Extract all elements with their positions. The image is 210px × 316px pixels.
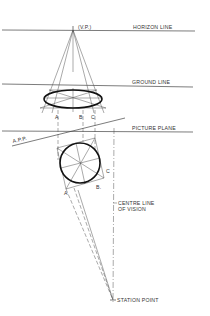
app-line: [12, 118, 125, 146]
centre-line-of-vision: [113, 128, 114, 304]
picture-plane-line: [2, 131, 193, 132]
label-a-plan: A: [64, 190, 68, 196]
label-b-plan: B.: [96, 184, 101, 190]
vp-label: (V.P.): [78, 24, 91, 30]
centre-line-label-2: OF VISION: [118, 206, 146, 212]
horizon-line-label: HORIZON LINE: [133, 24, 173, 30]
station-point-label: STATION POINT: [117, 297, 159, 303]
ground-line-label: GROUND LINE: [132, 79, 171, 85]
picture-plane-label: PICTURE PLANE: [132, 125, 176, 131]
perspective-circle-diagram: A B C A B. C (V.P.) HORIZON LINE GROUND …: [0, 0, 210, 316]
label-a-top: A: [55, 114, 59, 120]
plan-square: [57, 138, 104, 189]
sight-lines: [66, 188, 113, 300]
label-c-plan: C: [106, 168, 110, 174]
label-c-top: C: [91, 114, 95, 120]
label-b-top: B: [79, 114, 83, 120]
horizon-line: [2, 30, 195, 31]
